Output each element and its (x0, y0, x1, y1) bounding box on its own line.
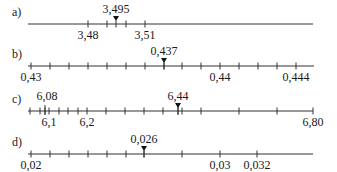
tick-label: 6,1 (42, 115, 57, 129)
marker-value: 0,026 (131, 132, 158, 146)
tick-label: 0,44 (210, 70, 231, 84)
line-label-a: a) (12, 5, 21, 19)
down-triangle-marker-icon (141, 146, 147, 151)
down-triangle-marker-icon (113, 16, 119, 21)
tick-label: 3,48 (78, 28, 99, 42)
tick-label: 3,51 (135, 28, 156, 42)
number-lines-diagram: a)3,4953,483,51b)0,4370,430,440,444c)6,4… (0, 0, 337, 172)
down-triangle-marker-icon (175, 103, 181, 108)
line-label-b: b) (12, 47, 22, 61)
line-label-d: d) (12, 135, 22, 149)
tick-label: 0,03 (210, 158, 231, 172)
tick-label-above: 6,08 (37, 89, 58, 103)
marker-value: 3,495 (103, 2, 130, 16)
marker-value: 0,437 (151, 44, 178, 58)
tick-label: 0,43 (21, 70, 42, 84)
tick-label: 6,80 (303, 115, 324, 129)
tick-label: 0,02 (21, 158, 42, 172)
tick-label: 6,2 (80, 115, 95, 129)
marker-value: 6,44 (168, 89, 189, 103)
tick-label: 0,032 (244, 158, 271, 172)
down-triangle-marker-icon (161, 58, 167, 63)
tick-label: 0,444 (283, 70, 310, 84)
line-label-c: c) (12, 92, 21, 106)
